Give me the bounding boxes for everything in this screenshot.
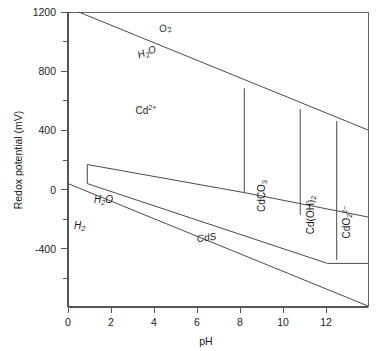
x-tick-label-4: 4	[151, 316, 157, 328]
region-label-cds: CdS	[196, 231, 217, 245]
y-tick-label-1200: 1200	[33, 6, 57, 18]
x-tick-label-12: 12	[320, 316, 332, 328]
y-axis-minor-ticks	[63, 42, 68, 279]
region-label-h2: H2	[74, 220, 85, 233]
region-label-cd2plus: Cd2+	[136, 103, 157, 116]
y-tick-label-0: 0	[50, 184, 56, 196]
x-tick-label-10: 10	[277, 316, 289, 328]
y-tick-label-800: 800	[38, 65, 56, 77]
x-tick-label-2: 2	[108, 316, 114, 328]
x-tick-label-0: 0	[65, 316, 71, 328]
line-o2-h2o-upper-limit	[79, 12, 368, 130]
x-tick-label-8: 8	[237, 316, 243, 328]
region-label-h2o-lower: H2O	[94, 194, 113, 207]
x-axis-title: pH	[199, 335, 212, 347]
x-axis-ticks	[68, 307, 326, 313]
pourbaix-diagram: 1200 800 400 0 -400 0 2 4 6 8 10 12 pH R…	[0, 0, 382, 351]
region-label-cdoh2: Cd(OH)2	[305, 196, 318, 234]
region-label-cdo2: CdO22−	[340, 206, 355, 239]
region-label-o2: O2	[157, 20, 173, 37]
y-axis-title: Redox potential (mV)	[12, 111, 24, 210]
y-tick-label-400: 400	[38, 124, 56, 136]
region-label-cdco3: CdCO3	[256, 180, 269, 212]
chart-canvas: 1200 800 400 0 -400 0 2 4 6 8 10 12 pH R…	[0, 0, 382, 351]
region-label-h2o-upper: H2O	[136, 43, 159, 62]
x-tick-label-6: 6	[194, 316, 200, 328]
y-tick-label-minus400: -400	[35, 243, 56, 255]
plot-frame	[68, 12, 368, 307]
y-axis-major-ticks	[61, 12, 68, 249]
